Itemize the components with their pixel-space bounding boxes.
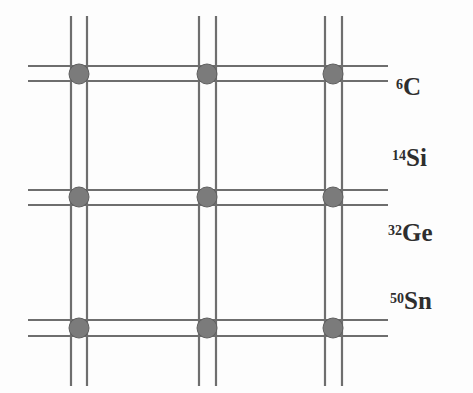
- node-r1c2: [197, 64, 217, 84]
- node-r2c1: [69, 187, 89, 207]
- node-r2c3: [323, 187, 343, 207]
- node-r2c2: [197, 187, 217, 207]
- node-r3c1: [69, 318, 89, 338]
- node-r1c3: [323, 64, 343, 84]
- lattice-grid-svg: [0, 0, 473, 393]
- node-r3c2: [197, 318, 217, 338]
- node-r1c1: [69, 64, 89, 84]
- lattice-figure: 6C 14Si 32Ge 50Sn: [0, 0, 473, 393]
- node-r3c3: [323, 318, 343, 338]
